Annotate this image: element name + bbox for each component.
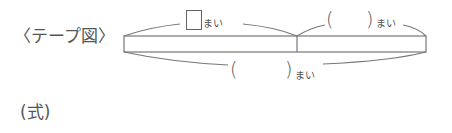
brace-top-left-a bbox=[124, 24, 180, 36]
unit-top-right: まい bbox=[376, 15, 396, 30]
brace-top-left-b bbox=[243, 24, 297, 36]
unit-top-left: まい bbox=[203, 15, 223, 30]
unit-bottom: まい bbox=[295, 67, 315, 82]
tape-bar bbox=[124, 36, 426, 52]
paren-close-top-right: ) bbox=[366, 8, 373, 30]
brace-top-right-b bbox=[403, 25, 426, 36]
brace-top-right-a bbox=[297, 25, 325, 36]
answer-box-top-left[interactable] bbox=[186, 10, 202, 30]
brace-bottom-a bbox=[124, 52, 228, 65]
paren-open-bottom: ( bbox=[230, 58, 237, 80]
tape-diagram-label: 〈テープ図〉 bbox=[14, 22, 115, 47]
paren-open-top-right: ( bbox=[326, 8, 333, 30]
formula-label: (式) bbox=[20, 98, 50, 123]
paren-close-bottom: ) bbox=[285, 58, 292, 80]
brace-bottom-b bbox=[323, 52, 426, 64]
